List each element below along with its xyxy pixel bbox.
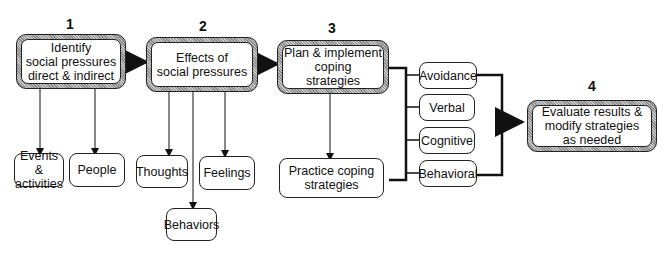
step-4-box: Evaluate results & modify strategies as … xyxy=(527,100,657,152)
cognitive-box: Cognitive xyxy=(419,127,475,154)
step-1-label: Identify social pressures direct & indir… xyxy=(21,39,121,84)
behavioral-box: Behavioral xyxy=(419,160,477,187)
thoughts-box: Thoughts xyxy=(136,155,188,188)
step-number-3: 3 xyxy=(322,20,342,36)
step-3-box: Plan & implement coping strategies xyxy=(277,40,389,94)
avoidance-box: Avoidance xyxy=(419,62,477,89)
step-2-box: Effects of social pressures xyxy=(146,37,258,92)
step-1-box: Identify social pressures direct & indir… xyxy=(16,34,126,89)
practice-coping-box: Practice coping strategies xyxy=(279,158,384,198)
behaviors-box: Behaviors xyxy=(166,208,217,241)
events-activities-box: Events & activities xyxy=(14,153,64,187)
step-3-label: Plan & implement coping strategies xyxy=(282,45,384,89)
step-number-1: 1 xyxy=(60,16,80,32)
verbal-box: Verbal xyxy=(419,94,475,121)
people-box: People xyxy=(69,153,125,187)
feelings-box: Feelings xyxy=(199,156,255,190)
step-2-label: Effects of social pressures xyxy=(151,42,253,87)
step-4-label: Evaluate results & modify strategies as … xyxy=(532,105,652,147)
step-number-2: 2 xyxy=(193,18,213,34)
step-number-4: 4 xyxy=(582,78,602,94)
